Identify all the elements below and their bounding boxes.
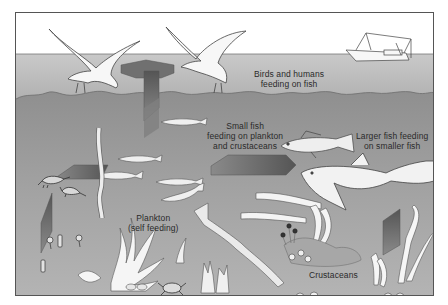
label-birds-humans: Birds and humans feeding on fish (254, 69, 324, 89)
food-chain-diagram: Birds and humans feeding on fish Small f… (15, 12, 434, 296)
ocean-scene (16, 13, 434, 296)
label-small-fish: Small fish feeding on plankton and crust… (207, 121, 283, 151)
label-larger-fish: Larger fish feeding on smaller fish (356, 131, 428, 151)
energy-arrow-middle (211, 155, 296, 175)
label-plankton: Plankton (self feeding) (128, 213, 179, 233)
label-crustaceans: Crustaceans (309, 270, 358, 280)
